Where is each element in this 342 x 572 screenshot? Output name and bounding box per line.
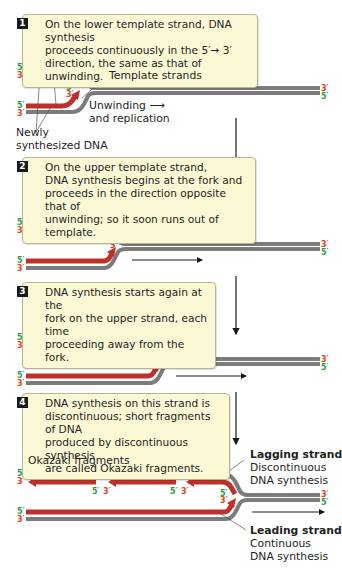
step-4-line-1: DNA synthesis on this strand is	[45, 397, 223, 410]
svg-text:3′: 3′	[66, 90, 74, 99]
step-2-line-3: proceeds in the direction opposite that …	[45, 187, 249, 213]
step-1-line-2: proceeds continuously in the 5′→ 3′	[45, 44, 251, 57]
lagging-strand-line-1: Discontinuous	[250, 461, 326, 474]
svg-text:5′: 5′	[321, 248, 329, 257]
step-3-line-3: proceeding away from the fork.	[45, 338, 209, 364]
svg-text:3′: 3′	[17, 379, 25, 388]
step-2-line-1: On the upper template strand,	[45, 161, 249, 174]
svg-text:3′: 3′	[17, 515, 25, 524]
lagging-strand-title: Lagging strand	[250, 448, 342, 461]
newly-synthesized-label-line-2: synthesized DNA	[16, 139, 108, 152]
step-2-callout: 2 On the upper template strand, DNA synt…	[22, 157, 256, 244]
unwinding-label-line-1: Unwinding ⟶	[89, 99, 165, 112]
svg-text:3′: 3′	[17, 264, 25, 273]
okazaki-fragments-label: Okazaki fragments	[28, 454, 130, 467]
step-4-line-2: discontinuous; short fragments of DNA	[45, 410, 223, 436]
step-4-badge: 4	[17, 397, 28, 408]
lagging-strand-line-2: DNA synthesis	[250, 474, 328, 487]
svg-text:3′: 3′	[181, 487, 189, 496]
leading-strand-line-2: DNA synthesis	[250, 550, 328, 563]
svg-text:5′: 5′	[92, 487, 100, 496]
step-3-line-1: DNA synthesis starts again at the	[45, 286, 209, 312]
template-strands-label: Template strands	[109, 69, 202, 82]
svg-text:3′: 3′	[220, 496, 228, 505]
step-2-line-4: unwinding; so it soon runs out of templa…	[45, 213, 249, 239]
step-1-line-1: On the lower template strand, DNA synthe…	[45, 18, 251, 44]
svg-text:3′: 3′	[17, 109, 25, 118]
step-2-line-2: DNA synthesis begins at the fork and	[45, 174, 249, 187]
step-2-badge: 2	[17, 161, 28, 172]
svg-text:5′: 5′	[321, 498, 329, 507]
step-1-badge: 1	[17, 18, 28, 29]
svg-text:5′: 5′	[321, 92, 329, 101]
unwinding-label-line-2: and replication	[89, 112, 170, 125]
step-3-line-2: fork on the upper strand, each time	[45, 312, 209, 338]
svg-text:3′: 3′	[103, 487, 111, 496]
step-3-badge: 3	[17, 286, 28, 297]
newly-synthesized-label-line-1: Newly	[16, 126, 49, 139]
svg-text:5′: 5′	[321, 363, 329, 372]
step-3-callout: 3 DNA synthesis starts again at the fork…	[22, 282, 216, 369]
leading-strand-line-1: Continuous	[250, 537, 311, 550]
leading-strand-title: Leading strand	[250, 524, 342, 537]
svg-text:5′: 5′	[170, 487, 178, 496]
